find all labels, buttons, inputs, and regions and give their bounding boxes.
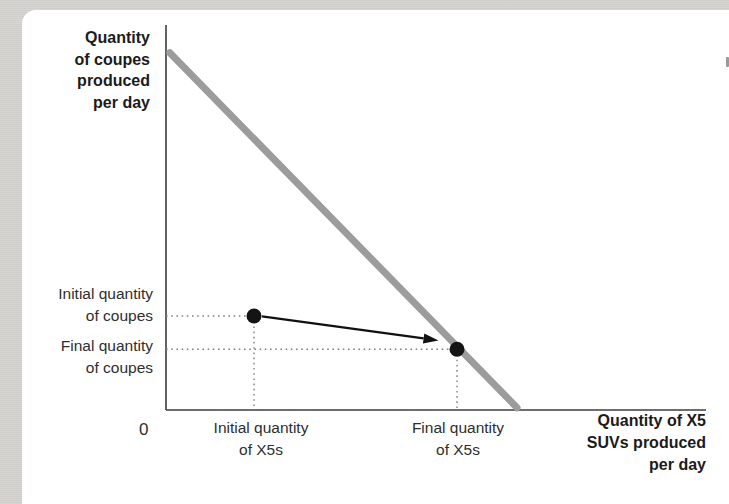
page-background: Quantity of coupes produced per day Init… [0, 0, 729, 504]
annotation-line: of X5s [214, 439, 309, 461]
shift-arrow-line [262, 316, 424, 338]
annotation-initial-x5s: Initial quantity of X5s [214, 417, 309, 461]
x-axis-title: Quantity of X5 SUVs produced per day [587, 410, 706, 476]
annotation-initial-coupes: Initial quantity of coupes [58, 283, 153, 327]
final-point [450, 342, 465, 357]
annotation-line: of coupes [58, 305, 153, 327]
annotation-line: Final quantity [412, 417, 504, 439]
annotation-line: Final quantity [61, 335, 153, 357]
initial-point [247, 308, 262, 323]
y-axis-title-line: per day [74, 92, 150, 114]
y-axis-title-line: Quantity [74, 27, 150, 49]
annotation-final-x5s: Final quantity of X5s [412, 417, 504, 461]
annotation-line: of coupes [61, 357, 153, 379]
ppf-line [170, 53, 517, 408]
x-axis-title-line: SUVs produced [587, 432, 706, 454]
origin-label: 0 [139, 420, 148, 440]
x-axis-title-line: Quantity of X5 [587, 410, 706, 432]
shift-arrow-head [423, 334, 439, 344]
annotation-line: Initial quantity [214, 417, 309, 439]
y-axis-title-line: of coupes [74, 49, 150, 71]
annotation-line: Initial quantity [58, 283, 153, 305]
y-axis-title: Quantity of coupes produced per day [74, 27, 150, 113]
x-axis-title-line: per day [587, 454, 706, 476]
annotation-final-coupes: Final quantity of coupes [61, 335, 153, 379]
y-axis-title-line: produced [74, 70, 150, 92]
annotation-line: of X5s [412, 439, 504, 461]
